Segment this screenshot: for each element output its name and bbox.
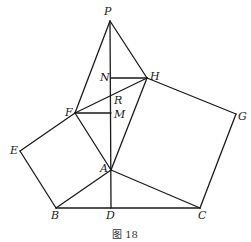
point-label-f: F [64,106,73,119]
point-label-r: R [113,94,122,107]
point-label-d: D [105,209,115,222]
point-label-b: B [50,209,59,222]
segment-ba [56,170,111,208]
segment-hg [147,78,236,114]
point-label-a: A [99,162,108,175]
figure-caption: 图 18 [112,229,138,240]
segment-pd [110,21,111,208]
segment-ph [110,21,147,78]
segment-ha [111,78,147,170]
point-label-n: N [99,71,110,84]
figure-segments [20,21,236,208]
point-label-h: H [149,70,160,83]
point-label-g: G [238,110,247,123]
segment-gc [200,114,236,208]
point-label-m: M [113,108,126,121]
segment-ac [111,170,200,208]
point-label-c: C [198,209,207,222]
point-label-e: E [9,144,18,157]
segment-eb [20,151,56,208]
geometry-figure: PHGNRFMEABDC 图 18 [0,0,251,242]
point-label-p: P [103,5,112,18]
